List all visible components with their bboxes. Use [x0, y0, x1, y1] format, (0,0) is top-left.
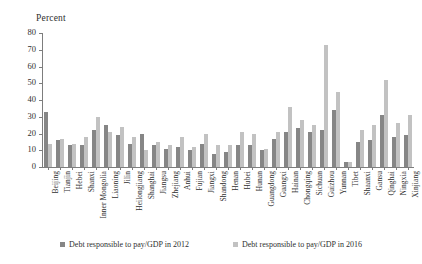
bar-group	[332, 33, 341, 167]
x-tick-mark	[228, 167, 229, 170]
legend-swatch-icon	[60, 242, 65, 247]
x-tick-mark	[252, 167, 253, 170]
x-tick-mark	[72, 167, 73, 170]
bar	[44, 112, 48, 167]
plot-area: 01020304050607080	[42, 33, 414, 167]
x-axis-label: Shanghai	[147, 171, 156, 199]
bar	[384, 80, 388, 167]
x-axis-label: Fujian	[195, 171, 204, 191]
legend-label: Debt responsible to pay/GDP in 2016	[242, 240, 362, 249]
bar	[156, 142, 160, 167]
bar	[168, 145, 172, 167]
x-tick-mark	[360, 167, 361, 170]
bar-group	[392, 33, 401, 167]
y-tick-label: 80	[28, 27, 37, 37]
bar	[176, 147, 180, 167]
bar-group	[320, 33, 329, 167]
bars-layer	[42, 33, 414, 167]
bar	[80, 145, 84, 167]
bar-group	[356, 33, 365, 167]
bar-group	[212, 33, 221, 167]
bar-group	[140, 33, 149, 167]
x-axis-label: Beijing	[51, 171, 60, 193]
x-axis-label: Qinghai	[387, 171, 396, 196]
bar	[192, 147, 196, 167]
bar	[212, 154, 216, 167]
x-tick-mark	[108, 167, 109, 170]
bar	[380, 115, 384, 167]
x-tick-mark	[240, 167, 241, 170]
legend-swatch-icon	[233, 242, 238, 247]
chart-legend: Debt responsible to pay/GDP in 2012Debt …	[0, 240, 422, 249]
bar	[128, 144, 132, 167]
x-tick-mark	[336, 167, 337, 170]
bar	[116, 135, 120, 167]
x-axis-label: Hunan	[255, 171, 264, 191]
x-tick-mark	[300, 167, 301, 170]
bar-group	[80, 33, 89, 167]
x-axis-label: Gansu	[375, 171, 384, 190]
bar	[240, 132, 244, 167]
y-tick-label: 50	[28, 77, 37, 87]
x-axis-label: Hebei	[75, 171, 84, 189]
x-axis-label: Jilin	[123, 171, 132, 184]
bar	[120, 127, 124, 167]
x-axis-label: Guangdong	[267, 171, 276, 206]
x-axis-label: Shanxi	[87, 171, 96, 192]
bar-group	[152, 33, 161, 167]
x-tick-mark	[204, 167, 205, 170]
bar-group	[344, 33, 353, 167]
bar	[296, 128, 300, 167]
bar	[164, 149, 168, 167]
x-axis-label: Hubei	[243, 171, 252, 190]
bar	[408, 115, 412, 167]
bar-group	[44, 33, 53, 167]
bar	[228, 145, 232, 167]
x-axis-label: Heilongjiang	[135, 171, 144, 211]
y-axis-title: Percent	[36, 13, 66, 23]
bar-group	[128, 33, 137, 167]
bar	[72, 144, 76, 167]
x-axis-label: Tianjin	[63, 171, 72, 193]
x-axis-label: Ningxia	[399, 171, 408, 196]
bar-group	[92, 33, 101, 167]
bar	[404, 135, 408, 167]
bar	[224, 152, 228, 167]
x-axis-label: Anhui	[183, 171, 192, 190]
legend-entry: Debt responsible to pay/GDP in 2016	[233, 240, 362, 249]
bar	[56, 140, 60, 167]
legend-label: Debt responsible to pay/GDP in 2012	[69, 240, 189, 249]
y-tick-mark	[39, 167, 42, 168]
bar	[68, 145, 72, 167]
bar	[272, 139, 276, 167]
bar	[92, 130, 96, 167]
x-tick-mark	[96, 167, 97, 170]
bar	[276, 132, 280, 167]
bar	[396, 123, 400, 167]
bar-group	[284, 33, 293, 167]
bar	[372, 125, 376, 167]
x-axis-label: Shandong	[219, 171, 228, 201]
bar	[300, 120, 304, 167]
x-tick-mark	[324, 167, 325, 170]
x-axis-label: Jiangsu	[159, 171, 168, 194]
bar-group	[176, 33, 185, 167]
y-tick-label: 70	[28, 44, 37, 54]
bar-group	[368, 33, 377, 167]
bar	[48, 144, 52, 167]
y-tick-label: 30	[28, 111, 37, 121]
bar-group	[272, 33, 281, 167]
x-axis-label: Liaoning	[111, 171, 120, 198]
bar	[108, 132, 112, 167]
x-tick-mark	[156, 167, 157, 170]
x-axis-label: Henan	[231, 171, 240, 191]
bar	[332, 110, 336, 167]
bar-group	[200, 33, 209, 167]
y-tick-label: 40	[28, 94, 37, 104]
bar	[84, 137, 88, 167]
x-tick-mark	[84, 167, 85, 170]
bar	[264, 149, 268, 167]
y-tick-label: 0	[32, 161, 36, 171]
bar	[336, 92, 340, 167]
x-axis-label: Guangxi	[279, 171, 288, 197]
